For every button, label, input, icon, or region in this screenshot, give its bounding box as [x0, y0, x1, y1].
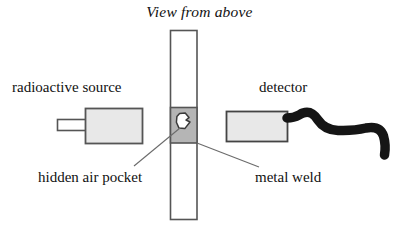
leader-line-metal-weld [197, 143, 259, 167]
figure-root: View from above radioactive source detec… [0, 0, 399, 229]
source-body [86, 109, 143, 144]
detector-body [227, 112, 288, 142]
source-nozzle [58, 120, 87, 131]
schematic-drawing [0, 0, 399, 229]
detector-cable [287, 112, 385, 155]
